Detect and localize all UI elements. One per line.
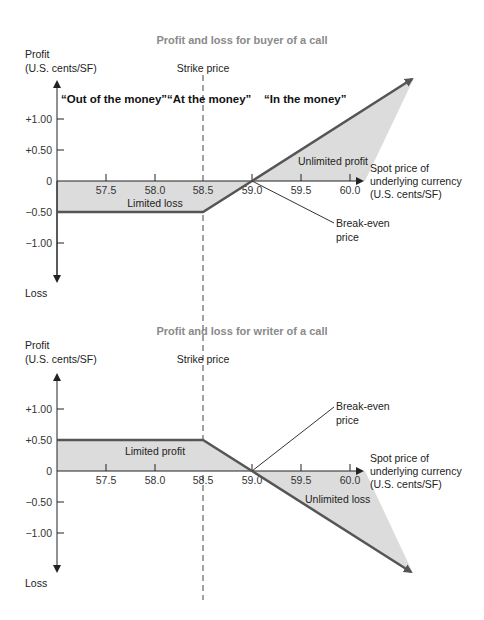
break-even-leader	[252, 407, 334, 471]
y-tick-label: +0.50	[25, 434, 52, 446]
x-tick-label: 59.5	[291, 184, 312, 196]
x-tick-label: 58.0	[145, 474, 166, 486]
limited-loss-label: Limited loss	[127, 197, 182, 209]
region-in-money: “In the money”	[264, 93, 346, 105]
region-out-of-money: “Out of the money”	[61, 93, 167, 105]
y-tick-label: −0.50	[25, 496, 52, 508]
buyer-chart: Profit and loss for buyer of a call Prof…	[25, 34, 462, 299]
y-axis-label-unit: (U.S. cents/SF)	[25, 353, 97, 365]
y-tick-label: +0.50	[25, 144, 52, 156]
x-axis-label: underlying currency	[370, 175, 462, 187]
loss-label: Loss	[25, 287, 47, 299]
x-tick-label: 57.5	[96, 184, 117, 196]
y-axis-label-unit: (U.S. cents/SF)	[25, 62, 97, 74]
chart-title: Profit and loss for writer of a call	[156, 325, 327, 337]
y-tick-label: +1.00	[25, 113, 52, 125]
unlimited-profit-label: Unlimited profit	[298, 155, 368, 167]
break-even-label: price	[336, 414, 359, 426]
x-axis-label: underlying currency	[370, 465, 462, 477]
x-tick-label: 59.5	[291, 474, 312, 486]
x-tick-label: 57.5	[96, 474, 117, 486]
x-axis-label: (U.S. cents/SF)	[370, 478, 442, 490]
y-tick-label: −1.00	[25, 237, 52, 249]
y-tick-label: 0	[46, 465, 52, 477]
limited-profit-label: Limited profit	[125, 445, 185, 457]
x-tick-label: 58.0	[145, 184, 166, 196]
strike-price-label: Strike price	[177, 353, 230, 365]
y-axis-label-top: Profit	[25, 48, 50, 60]
chart-title: Profit and loss for buyer of a call	[156, 34, 327, 46]
x-axis-label: (U.S. cents/SF)	[370, 188, 442, 200]
option-payoff-figure: Profit and loss for buyer of a call Prof…	[0, 0, 484, 620]
break-even-label: Break-even	[336, 400, 390, 412]
y-tick-label: −1.00	[25, 527, 52, 539]
strike-price-label: Strike price	[177, 62, 230, 74]
y-tick-label: −0.50	[25, 206, 52, 218]
x-axis-label: Spot price of	[370, 162, 429, 174]
region-at-money: “At the money”	[167, 93, 251, 105]
x-tick-label: 58.5	[193, 184, 214, 196]
y-tick-label: 0	[46, 175, 52, 187]
x-tick-label: 58.5	[193, 474, 214, 486]
writer-chart: Profit and loss for writer of a call Pro…	[25, 325, 462, 589]
break-even-label: price	[336, 231, 359, 243]
x-tick-label: 60.0	[340, 474, 361, 486]
x-tick-label: 60.0	[340, 184, 361, 196]
unlimited-loss-label: Unlimited loss	[305, 493, 370, 505]
y-axis-label-top: Profit	[25, 339, 50, 351]
y-tick-label: +1.00	[25, 403, 52, 415]
break-even-label: Break-even	[336, 217, 390, 229]
loss-label: Loss	[25, 577, 47, 589]
x-axis-label: Spot price of	[370, 452, 429, 464]
